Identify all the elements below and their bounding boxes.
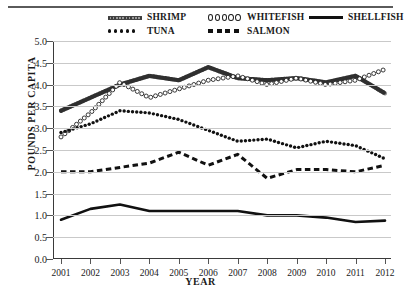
y-axis-tick-mark bbox=[46, 41, 53, 42]
x-axis-tick-mark bbox=[326, 259, 327, 264]
x-axis-tick-mark bbox=[90, 259, 91, 264]
y-axis-tick-label: 4.5 bbox=[21, 57, 47, 68]
series-shrimp bbox=[61, 67, 385, 111]
y-axis-tick-label: 4.0 bbox=[21, 79, 47, 90]
x-axis-tick-mark bbox=[120, 259, 121, 264]
legend-label-whitefish: WHITEFISH bbox=[247, 12, 304, 22]
legend-item-shrimp[interactable]: SHRIMP bbox=[108, 10, 186, 24]
y-axis-tick-mark bbox=[46, 85, 53, 86]
chart-legend: SHRIMP WHITEFISH SHELLFISH TUNA bbox=[108, 10, 398, 42]
gridline bbox=[53, 215, 391, 216]
x-axis-tick-label: 2010 bbox=[317, 268, 336, 278]
y-axis-tick-label: 0.0 bbox=[21, 254, 47, 265]
x-axis-tick-label: 2008 bbox=[258, 268, 277, 278]
x-axis-tick-label: 2004 bbox=[140, 268, 159, 278]
x-axis-tick-mark bbox=[208, 259, 209, 264]
legend-label-tuna: TUNA bbox=[147, 26, 175, 36]
y-axis-tick-mark bbox=[46, 259, 53, 260]
y-axis-tick-mark bbox=[46, 63, 53, 64]
gridline bbox=[53, 150, 391, 151]
y-axis-tick-label: 0.5 bbox=[21, 232, 47, 243]
y-axis-tick-mark bbox=[46, 237, 53, 238]
legend-label-shrimp: SHRIMP bbox=[147, 12, 186, 22]
x-axis-tick-label: 2009 bbox=[287, 268, 306, 278]
x-axis-tick-label: 2002 bbox=[81, 268, 100, 278]
x-axis-tick-label: 2011 bbox=[346, 268, 365, 278]
whitefish-line-swatch-icon bbox=[208, 12, 242, 22]
y-axis-tick-mark bbox=[46, 150, 53, 151]
gridline bbox=[53, 172, 391, 173]
x-axis-tick-mark bbox=[385, 259, 386, 264]
x-axis-tick-mark bbox=[267, 259, 268, 264]
x-axis-tick-label: 2005 bbox=[169, 268, 188, 278]
plot-area: 0.00.51.01.52.02.53.03.54.04.55.02001200… bbox=[53, 41, 391, 259]
y-axis-tick-mark bbox=[46, 194, 53, 195]
y-axis-tick-label: 1.0 bbox=[21, 210, 47, 221]
y-axis-tick-label: 5.0 bbox=[21, 36, 47, 47]
y-axis-tick-mark bbox=[46, 172, 53, 173]
x-axis-tick-label: 2001 bbox=[52, 268, 71, 278]
gridline bbox=[53, 128, 391, 129]
gridline bbox=[53, 63, 391, 64]
x-axis-tick-mark bbox=[297, 259, 298, 264]
legend-label-salmon: SALMON bbox=[247, 26, 290, 36]
legend-row-2: TUNA SALMON bbox=[108, 24, 398, 38]
x-axis-tick-label: 2007 bbox=[228, 268, 247, 278]
x-axis-tick-mark bbox=[179, 259, 180, 264]
x-axis-tick-mark bbox=[149, 259, 150, 264]
gridline bbox=[53, 85, 391, 86]
gridline bbox=[53, 106, 391, 107]
x-axis-tick-mark bbox=[238, 259, 239, 264]
y-axis-tick-label: 3.0 bbox=[21, 123, 47, 134]
legend-item-tuna[interactable]: TUNA bbox=[108, 24, 175, 38]
x-axis-tick-mark bbox=[356, 259, 357, 264]
shrimp-line-swatch-icon bbox=[108, 12, 142, 22]
salmon-line-swatch-icon bbox=[208, 26, 242, 36]
legend-item-shellfish[interactable]: SHELLFISH bbox=[309, 10, 404, 24]
series-salmon bbox=[61, 152, 385, 178]
shellfish-line-swatch-icon bbox=[309, 12, 343, 22]
legend-item-salmon[interactable]: SALMON bbox=[208, 24, 290, 38]
gridline bbox=[53, 41, 391, 42]
series-shellfish bbox=[61, 205, 385, 222]
gridline bbox=[53, 237, 391, 238]
y-axis-tick-label: 2.5 bbox=[21, 145, 47, 156]
legend-row-1: SHRIMP WHITEFISH SHELLFISH bbox=[108, 10, 398, 24]
legend-item-whitefish[interactable]: WHITEFISH bbox=[208, 10, 304, 24]
tuna-line-swatch-icon bbox=[108, 26, 142, 36]
x-axis-tick-label: 2003 bbox=[110, 268, 129, 278]
x-axis-tick-label: 2006 bbox=[199, 268, 218, 278]
x-axis-tick-label: 2012 bbox=[376, 268, 395, 278]
legend-label-shellfish: SHELLFISH bbox=[348, 12, 404, 22]
figure-top-rule bbox=[8, 6, 393, 8]
y-axis-tick-mark bbox=[46, 215, 53, 216]
y-axis-tick-mark bbox=[46, 106, 53, 107]
x-axis-tick-mark bbox=[61, 259, 62, 264]
y-axis-tick-label: 2.0 bbox=[21, 166, 47, 177]
gridline bbox=[53, 194, 391, 195]
y-axis-tick-label: 3.5 bbox=[21, 101, 47, 112]
y-axis-tick-label: 1.5 bbox=[21, 188, 47, 199]
y-axis-tick-mark bbox=[46, 128, 53, 129]
series-tuna bbox=[59, 109, 385, 160]
